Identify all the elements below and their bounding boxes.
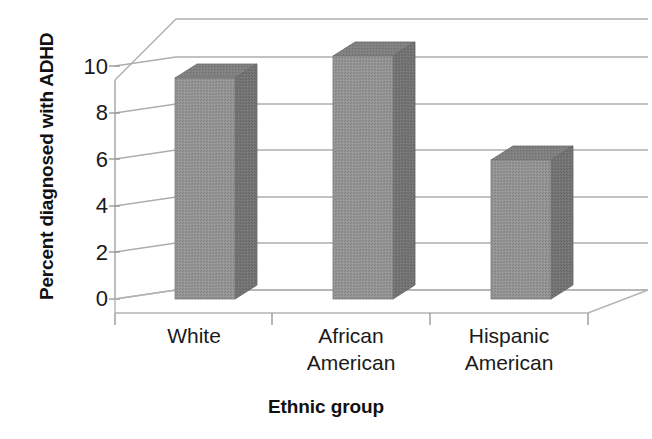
x-axis-tick-labels: White African American Hispanic American — [0, 322, 652, 392]
x-tick-label-hispanic-american: Hispanic American — [424, 322, 594, 376]
bar-african-american-front — [333, 56, 393, 299]
bar-african-american[interactable] — [333, 42, 415, 299]
bar-white[interactable] — [175, 64, 257, 299]
bar-hispanic-american[interactable] — [491, 146, 573, 299]
x-tick-label-hispanic-american-line1: Hispanic — [469, 324, 550, 347]
x-tick-label-african-american: African American — [266, 322, 436, 376]
bar-hispanic-american-front — [491, 160, 551, 299]
bar-white-front — [175, 78, 235, 299]
bar-chart-figure: Percent diagnosed with ADHD 10 8 6 4 2 0 — [0, 0, 652, 439]
x-axis-title: Ethnic group — [0, 396, 652, 418]
bar-white-side — [235, 64, 257, 299]
x-tick-label-hispanic-american-line2: American — [424, 349, 594, 376]
x-tick-label-white-line1: White — [167, 324, 221, 347]
x-tick-label-african-american-line1: African — [318, 324, 383, 347]
x-tick-label-white: White — [109, 322, 279, 349]
x-tick-label-african-american-line2: American — [266, 349, 436, 376]
bar-hispanic-american-side — [551, 146, 573, 299]
bar-african-american-side — [393, 42, 415, 299]
